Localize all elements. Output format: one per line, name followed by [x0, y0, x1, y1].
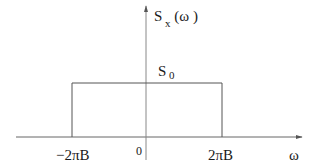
rect-spectrum: [72, 83, 222, 137]
tick-label-neg-2piB: −2πB: [56, 147, 90, 163]
level-label: S 0: [158, 63, 175, 81]
power-spectral-density-diagram: S x (ω ) S 0 −2πB 0 2πB ω: [0, 0, 317, 167]
x-axis-label: ω: [289, 147, 299, 163]
y-axis-label: S x (ω ): [154, 8, 198, 30]
tick-label-2piB: 2πB: [208, 147, 233, 163]
tick-label-origin: 0: [136, 144, 142, 158]
